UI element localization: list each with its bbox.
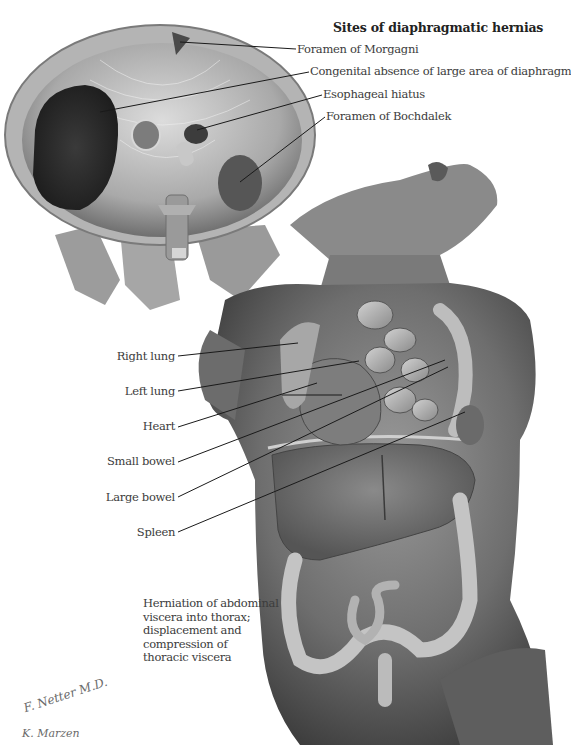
label-right-lung: Right lung: [117, 349, 175, 363]
caption-line: Herniation of abdominal: [143, 597, 279, 611]
label-esophageal-hiatus: Esophageal hiatus: [323, 87, 425, 101]
co-artist-signature: K. Marzen: [22, 727, 80, 740]
label-spleen: Spleen: [137, 525, 175, 539]
label-left-lung: Left lung: [125, 384, 175, 398]
label-foramen-of-morgagni: Foramen of Morgagni: [297, 42, 418, 56]
figure-caption: Herniation of abdominal viscera into tho…: [143, 597, 279, 665]
figure-title: Sites of diaphragmatic hernias: [333, 20, 543, 35]
label-large-bowel: Large bowel: [106, 490, 175, 504]
diaphragm-illustration: [5, 25, 315, 310]
label-foramen-of-bochdalek: Foramen of Bochdalek: [326, 109, 451, 123]
caption-line: displacement and: [143, 624, 279, 638]
caption-line: viscera into thorax;: [143, 611, 279, 625]
label-small-bowel: Small bowel: [107, 454, 175, 468]
label-heart: Heart: [143, 419, 175, 433]
caption-line: compression of: [143, 638, 279, 652]
label-congenital-absence: Congenital absence of large area of diap…: [310, 64, 571, 78]
caption-line: thoracic viscera: [143, 651, 279, 665]
